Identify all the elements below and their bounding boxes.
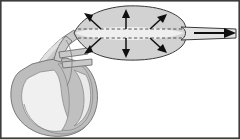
balloon-catheter-diagram: Intra-aortic balloon catheter inflation … [0, 0, 240, 139]
heart-group [11, 58, 98, 136]
figure-root: Intra-aortic balloon catheter inflation … [0, 0, 240, 139]
